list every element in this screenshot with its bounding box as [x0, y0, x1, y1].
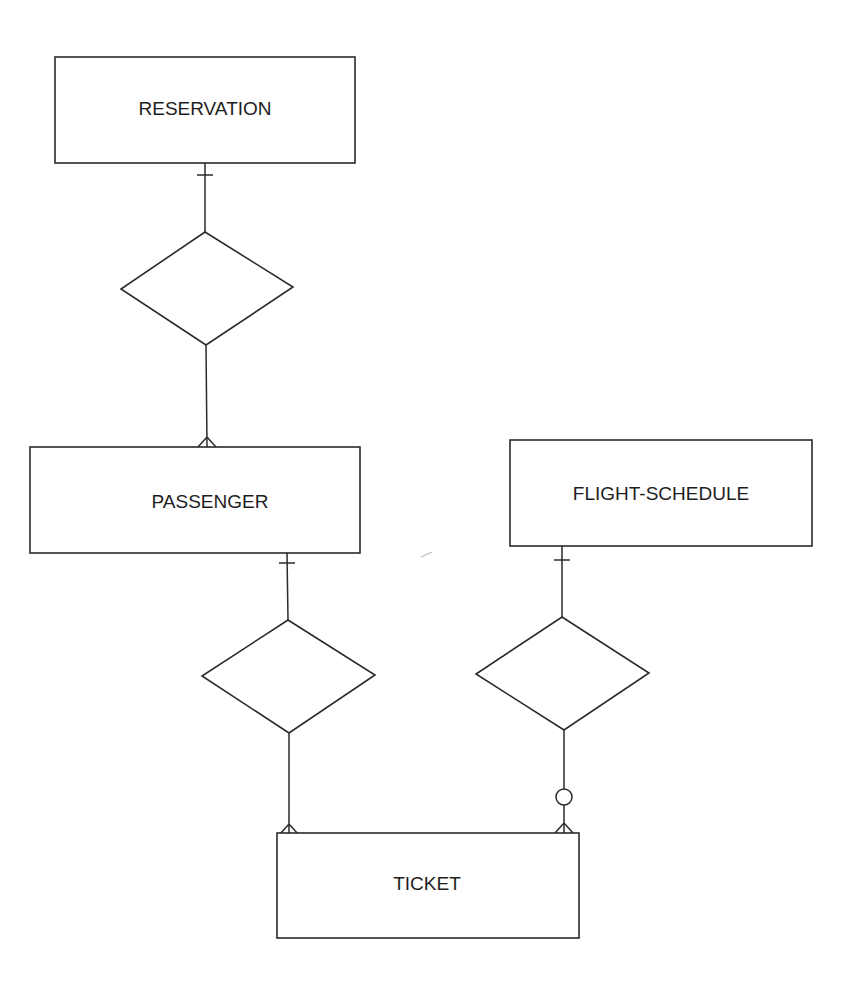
relationship-passenger-ticket[interactable]	[202, 620, 375, 733]
entity-ticket[interactable]: TICKET	[277, 833, 579, 938]
entity-label: FLIGHT-SCHEDULE	[573, 483, 749, 504]
entity-reservation[interactable]: RESERVATION	[55, 57, 355, 163]
entity-label: RESERVATION	[138, 98, 271, 119]
entity-passenger[interactable]: PASSENGER	[30, 447, 360, 553]
connector-relationship-to-passenger	[206, 345, 207, 447]
optional-zero-circle-icon	[556, 789, 572, 805]
relationship-flight-schedule-ticket[interactable]	[476, 617, 649, 730]
relationship-reservation-passenger[interactable]	[121, 232, 293, 345]
entity-label: PASSENGER	[152, 491, 269, 512]
er-diagram: RESERVATION PASSENGER FLIGHT-SCHEDULE TI…	[0, 0, 861, 988]
scan-smudge	[421, 552, 432, 557]
entity-flight-schedule[interactable]: FLIGHT-SCHEDULE	[510, 440, 812, 546]
entity-label: TICKET	[393, 873, 461, 894]
